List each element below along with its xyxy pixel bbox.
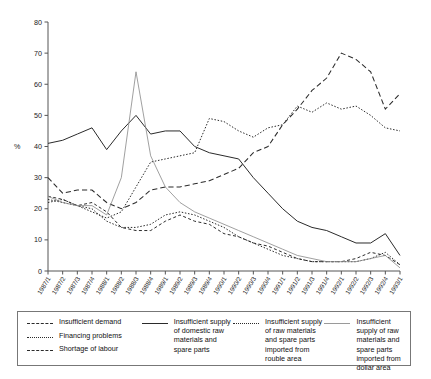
series-line-rouble-area-imports <box>48 199 400 264</box>
legend-column-1: Insufficient demand Financing problems S… <box>18 317 142 365</box>
series-line-financing-problems <box>48 103 400 218</box>
legend-item-shortage-of-labour: Shortage of labour <box>27 344 142 354</box>
legend-label: Insufficient demand <box>59 317 121 326</box>
legend-column-2: Insufficient supply of domestic raw mate… <box>142 317 233 365</box>
y-axis-tick-label: 40 <box>34 142 42 151</box>
chart-container: 01020304050607080%1987/11987/21987/31987… <box>0 0 431 379</box>
series-line-shortage-of-labour <box>48 196 400 264</box>
legend-label: Financing problems <box>59 331 122 340</box>
y-axis-tick-label: 50 <box>34 111 42 120</box>
legend-item-insufficient-demand: Insufficient demand <box>27 317 142 327</box>
legend-item-rouble-area-imports: Insufficient supply of raw materials and… <box>233 317 324 363</box>
dotted-line-sample-icon <box>233 320 259 327</box>
legend-item-dollar-area-imports: Insufficient supply of raw materials and… <box>324 317 410 372</box>
y-axis-tick-label: 80 <box>34 18 42 27</box>
chart-legend: Insufficient demand Financing problems S… <box>17 311 411 366</box>
y-axis-tick-label: 0 <box>38 267 42 276</box>
legend-column-3: Insufficient supply of raw materials and… <box>233 317 324 365</box>
series-line-dollar-area-imports <box>48 72 400 268</box>
x-axis-tick-label: 1993/1 <box>388 275 405 296</box>
medium-dash-line-sample-icon <box>27 347 53 354</box>
legend-column-4: Insufficient supply of raw materials and… <box>324 317 410 365</box>
thin-solid-line-sample-icon <box>324 320 350 327</box>
y-axis-tick-label: 20 <box>34 204 42 213</box>
long-dash-line-sample-icon <box>27 320 53 327</box>
series-line-insufficient-demand <box>48 53 400 209</box>
y-axis-tick-label: 70 <box>34 49 42 58</box>
legend-label: Insufficient supply of raw materials and… <box>356 317 410 372</box>
y-axis-title: % <box>14 142 21 151</box>
legend-label: Insufficient supply of raw materials and… <box>265 317 324 363</box>
legend-item-financing-problems: Financing problems <box>27 331 142 341</box>
y-axis-tick-label: 60 <box>34 80 42 89</box>
y-axis-tick-label: 10 <box>34 235 42 244</box>
series-line-domestic-raw-materials <box>48 115 400 255</box>
y-axis-tick-label: 30 <box>34 173 42 182</box>
legend-label: Shortage of labour <box>59 344 118 353</box>
legend-label: Insufficient supply of domestic raw mate… <box>174 317 233 354</box>
solid-line-sample-icon <box>142 320 168 327</box>
dotted-line-sample-icon <box>27 334 53 341</box>
legend-item-domestic-raw-materials: Insufficient supply of domestic raw mate… <box>142 317 233 354</box>
